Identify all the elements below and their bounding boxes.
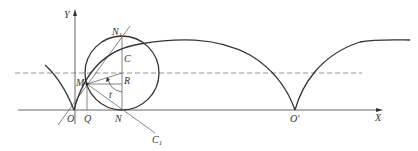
label-origin-prime: O' [290,113,300,124]
y-axis-arrow-icon [73,9,77,16]
label-q: Q [84,113,92,124]
cycloid-main-arch [74,40,295,110]
label-y-axis: Y [64,9,71,20]
point-m [85,82,88,85]
label-origin: O [67,113,74,124]
cycloid-diagram: Y X O Q N O' M C R t N1 C1 [0,0,418,151]
label-n: N [114,113,123,124]
label-x-axis: X [374,112,382,123]
label-m: M [75,77,85,88]
label-c1: C1 [152,134,162,147]
label-t: t [109,89,112,100]
label-r: R [123,75,130,86]
cycloid-right-branch [295,40,410,110]
cycloid-left-branch [45,65,74,110]
normal-line-c1 [87,84,155,133]
label-c: C [124,53,131,64]
